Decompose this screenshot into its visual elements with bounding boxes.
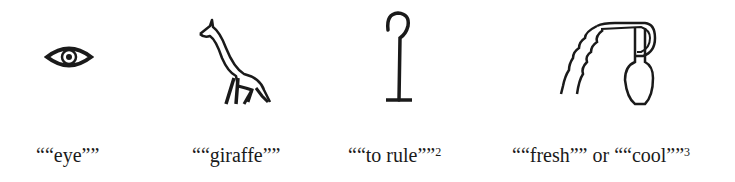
caption-giraffe: ““giraffe”” bbox=[192, 143, 280, 167]
water-jar-icon bbox=[555, 18, 665, 108]
caption-fresh-cool: ““fresh”” or ““cool””3 bbox=[512, 143, 690, 167]
caption-text: ““eye”” bbox=[36, 144, 99, 166]
caption-to-rule: ““to rule””2 bbox=[348, 143, 441, 167]
giraffe-icon bbox=[196, 16, 276, 106]
footnote-marker: 2 bbox=[435, 145, 441, 159]
footnote-marker: 3 bbox=[684, 145, 690, 159]
caption-text: ““to rule”” bbox=[348, 144, 435, 166]
crook-scepter-icon bbox=[380, 10, 416, 105]
caption-eye: ““eye”” bbox=[36, 143, 99, 167]
eye-icon bbox=[44, 42, 94, 72]
caption-text: ““fresh”” or ““cool”” bbox=[512, 144, 684, 166]
caption-text: ““giraffe”” bbox=[192, 144, 280, 166]
